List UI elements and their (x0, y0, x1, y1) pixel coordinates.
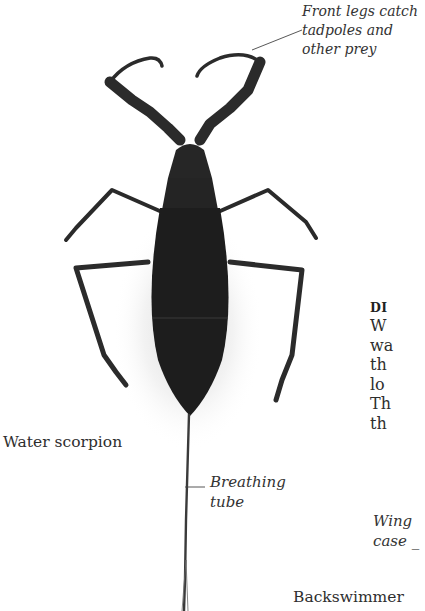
annotation-front-legs: Front legs catch tadpoles and other prey (302, 2, 418, 59)
annotation-line: tadpoles and (302, 21, 418, 40)
body-text-line: lo (370, 375, 393, 395)
annotation-line: Front legs catch (302, 2, 418, 21)
section-heading: DI (370, 300, 388, 315)
annotation-breathing-tube: Breathing tube (210, 472, 286, 512)
annotation-line: case _ (373, 531, 419, 551)
annotation-line: Breathing (210, 472, 286, 492)
species-label-water-scorpion: Water scorpion (3, 433, 122, 451)
body-text-line: Th (370, 394, 393, 414)
species-label-backswimmer: Backswimmer (293, 588, 404, 606)
body-text-line: th (370, 355, 393, 375)
water-scorpion-image (0, 0, 425, 611)
annotation-wing-case: Wing case _ (373, 511, 419, 551)
body-text-column: W wa th lo Th th (370, 316, 393, 433)
body-text-line: W (370, 316, 393, 336)
annotation-line: other prey (302, 40, 418, 59)
body-text-line: wa (370, 336, 393, 356)
annotation-line: tube (210, 492, 286, 512)
body-text-line: th (370, 414, 393, 434)
annotation-line: Wing (373, 511, 419, 531)
